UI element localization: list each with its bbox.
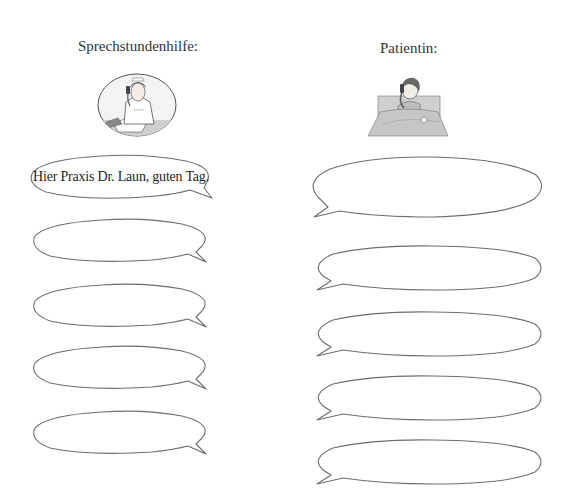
bubble-text bbox=[313, 244, 543, 294]
receptionist-speech-bubble-1[interactable]: Hier Praxis Dr. Laun, guten Tag. bbox=[26, 154, 216, 200]
nurse-on-phone-at-desk-icon bbox=[96, 72, 178, 138]
patient-speech-bubble-5[interactable] bbox=[313, 438, 543, 488]
bubble-text bbox=[32, 218, 212, 264]
patient-in-bed-on-phone-icon bbox=[368, 72, 448, 138]
receptionist-speech-bubble-5[interactable] bbox=[32, 410, 212, 456]
receptionist-heading: Sprechstundenhilfe: bbox=[78, 38, 198, 55]
bubble-text bbox=[313, 310, 543, 360]
bubble-text: Hier Praxis Dr. Laun, guten Tag. bbox=[26, 154, 220, 204]
receptionist-speech-bubble-3[interactable] bbox=[32, 283, 212, 329]
bubble-text bbox=[32, 283, 212, 329]
bubble-text bbox=[308, 155, 544, 223]
patient-speech-bubble-1[interactable] bbox=[308, 155, 544, 223]
patient-speech-bubble-3[interactable] bbox=[313, 310, 543, 360]
patient-speech-bubble-4[interactable] bbox=[313, 374, 543, 424]
bubble-text bbox=[32, 410, 212, 456]
patient-speech-bubble-2[interactable] bbox=[313, 244, 543, 294]
receptionist-speech-bubble-2[interactable] bbox=[32, 218, 212, 264]
bubble-text bbox=[313, 438, 543, 488]
bubble-text bbox=[313, 374, 543, 424]
patient-heading: Patientin: bbox=[380, 40, 438, 57]
receptionist-speech-bubble-4[interactable] bbox=[32, 345, 212, 391]
bubble-text bbox=[32, 345, 212, 391]
